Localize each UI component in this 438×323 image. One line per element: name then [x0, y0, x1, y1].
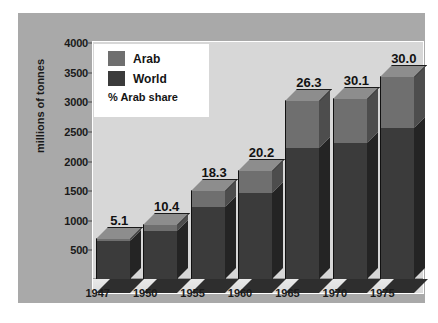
- y-axis-tick-3500: 3500: [64, 67, 88, 79]
- bar-segment-world-1955: [191, 207, 226, 279]
- bar-1947: [96, 239, 130, 279]
- bar-segment-arab-1955: [191, 190, 226, 207]
- y-axis-tick-4000: 4000: [64, 37, 88, 49]
- bar-value-label-1965: 26.3: [296, 75, 321, 90]
- bar-side-world-1950: [177, 220, 188, 279]
- legend-note: % Arab share: [108, 91, 209, 103]
- bar-side-1965: [319, 90, 330, 279]
- chart-screenshot: millions of tonnes 500100015002000250030…: [0, 0, 438, 323]
- x-axis-tick-1975: 1975: [370, 287, 394, 299]
- bar-segment-world-1947: [96, 241, 131, 279]
- legend-item-world: World: [108, 71, 209, 86]
- x-axis-tick-1960: 1960: [228, 287, 252, 299]
- bar-value-label-1975: 30.0: [391, 51, 416, 66]
- bar-side-world-1970: [367, 132, 378, 279]
- bar-1965: [285, 101, 319, 279]
- bar-side-world-1955: [225, 196, 236, 279]
- legend-label-arab: Arab: [133, 52, 160, 66]
- bar-side-1975: [414, 66, 425, 279]
- x-axis-tick-1965: 1965: [275, 287, 299, 299]
- chart-panel: millions of tonnes 500100015002000250030…: [18, 13, 425, 303]
- bar-side-world-1960: [272, 182, 283, 279]
- bar-value-label-1947: 5.1: [110, 213, 128, 228]
- bar-segment-arab-1950: [143, 224, 178, 231]
- y-axis-tick-2500: 2500: [64, 126, 88, 138]
- chart-legend: Arab World % Arab share: [94, 44, 209, 117]
- bar-segment-world-1970: [333, 143, 368, 279]
- x-axis-tick-1970: 1970: [323, 287, 347, 299]
- bar-side-1955: [225, 180, 236, 279]
- bar-side-1970: [367, 88, 378, 279]
- bar-value-label-1955: 18.3: [201, 165, 226, 180]
- legend-item-arab: Arab: [108, 51, 209, 66]
- bar-segment-world-1975: [380, 128, 415, 279]
- y-axis-tick-2000: 2000: [64, 156, 88, 168]
- bar-segment-world-1950: [143, 231, 178, 279]
- y-axis-tick-3000: 3000: [64, 96, 88, 108]
- x-axis-tick-1947: 1947: [85, 287, 109, 299]
- bar-segment-world-1965: [285, 148, 320, 279]
- bar-segment-arab-1970: [333, 98, 368, 143]
- legend-swatch-arab: [108, 51, 125, 66]
- bar-value-label-1970: 30.1: [344, 73, 369, 88]
- x-axis-tick-1955: 1955: [180, 287, 204, 299]
- legend-label-world: World: [133, 72, 167, 86]
- y-axis-tick-1000: 1000: [64, 215, 88, 227]
- bar-1955: [191, 191, 225, 279]
- y-axis-tick-1500: 1500: [64, 185, 88, 197]
- legend-swatch-world: [108, 71, 125, 86]
- bar-side-world-1975: [414, 117, 425, 279]
- bar-1970: [333, 99, 367, 279]
- bar-segment-world-1960: [238, 193, 273, 279]
- bar-segment-arab-1965: [285, 100, 320, 148]
- bar-segment-arab-1960: [238, 170, 273, 193]
- bar-1975: [380, 77, 414, 279]
- bar-value-label-1950: 10.4: [154, 199, 179, 214]
- x-axis-tick-1950: 1950: [133, 287, 157, 299]
- bar-1960: [238, 171, 272, 279]
- bar-segment-arab-1975: [380, 76, 415, 128]
- y-axis-tick-500: 500: [70, 244, 88, 256]
- bar-1950: [143, 225, 177, 279]
- bar-side-world-1965: [319, 137, 330, 279]
- y-axis-tick-labels: 5001000150020002500300035004000: [36, 26, 92, 316]
- bar-value-label-1960: 20.2: [249, 145, 274, 160]
- bar-side-1960: [272, 160, 283, 279]
